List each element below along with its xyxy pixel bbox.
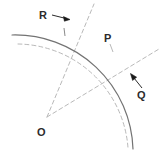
point-label-q: Q (137, 90, 146, 101)
primary-arc-solid (12, 35, 133, 149)
point-label-r: R (39, 10, 47, 21)
secondary-arc-dashed (18, 44, 128, 148)
point-label-o: O (37, 127, 46, 138)
point-label-p: P (104, 33, 112, 44)
tick-mark-p (110, 44, 113, 52)
radius-to-R-dashed (47, 4, 94, 117)
figure-canvas: R P Q O (0, 0, 162, 153)
tick-mark-r (64, 28, 65, 36)
diagram-svg (0, 0, 162, 153)
radius-to-Q-dashed (47, 49, 159, 117)
arrow-to-R-icon (52, 15, 70, 21)
arrow-to-Q-icon (131, 74, 143, 89)
